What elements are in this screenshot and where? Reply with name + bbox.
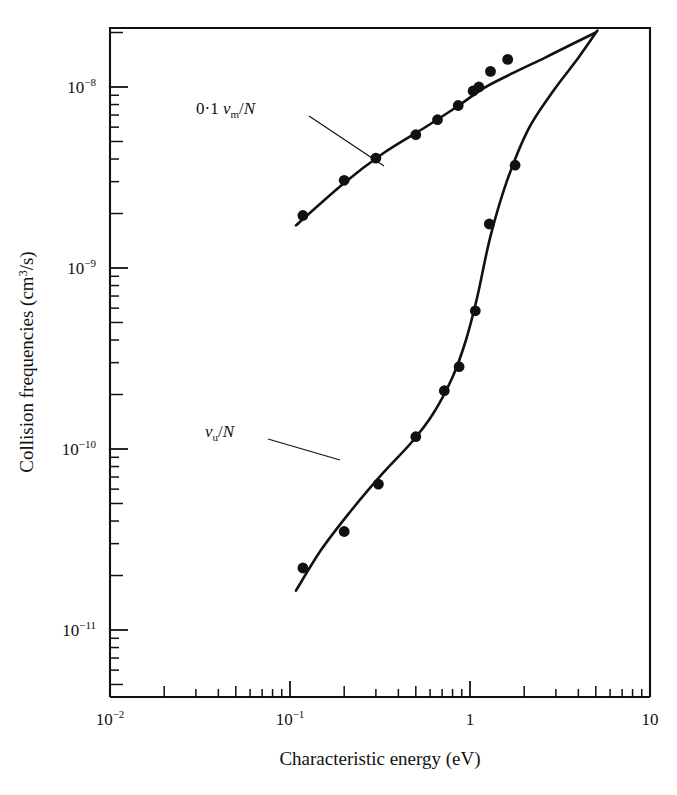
x-tick-label: 10−1 xyxy=(276,708,305,729)
y-tick-label: 10−8 xyxy=(67,76,96,97)
data-points xyxy=(298,54,521,573)
data-point xyxy=(298,210,309,221)
y-axis-ticks xyxy=(110,33,128,685)
y-axis-title: Collision frequencies (cm3/s) xyxy=(16,251,38,472)
data-curves xyxy=(296,31,597,591)
x-tick-label: 10−2 xyxy=(96,708,125,729)
x-tick-label: 1 xyxy=(466,710,475,729)
data-point xyxy=(410,129,421,140)
plot-frame xyxy=(110,28,650,697)
data-point xyxy=(410,431,421,442)
upper-curve-label: 0·1 νm/N xyxy=(196,99,257,120)
curve-upper xyxy=(296,33,596,226)
caption-fragment xyxy=(0,779,677,795)
data-point xyxy=(453,100,464,111)
y-axis-tick-labels: 10−810−910−1010−11 xyxy=(62,76,97,640)
data-point xyxy=(454,361,465,372)
y-tick-label: 10−10 xyxy=(62,438,97,459)
data-point xyxy=(510,160,521,171)
data-point xyxy=(484,219,495,230)
data-point xyxy=(502,54,513,65)
data-point xyxy=(339,526,350,537)
data-point xyxy=(439,385,450,396)
annotation-leaders xyxy=(268,116,384,460)
data-point xyxy=(474,82,485,93)
data-point xyxy=(373,479,384,490)
x-tick-label: 10 xyxy=(642,710,659,729)
y-tick-label: 10−11 xyxy=(62,619,96,640)
lower-curve-label: νu/N xyxy=(205,422,236,443)
data-point xyxy=(470,305,481,316)
data-point xyxy=(485,66,496,77)
data-point xyxy=(298,563,309,574)
y-tick-label: 10−9 xyxy=(67,257,96,278)
x-axis-tick-labels: 10−210−1110 xyxy=(96,708,659,729)
figure-container: 10−810−910−1010−11 10−210−1110 0·1 νm/N … xyxy=(0,0,677,795)
data-point xyxy=(432,114,443,125)
collision-frequency-chart: 10−810−910−1010−11 10−210−1110 0·1 νm/N … xyxy=(0,0,677,795)
data-point xyxy=(339,175,350,186)
x-axis-title: Characteristic energy (eV) xyxy=(279,748,480,770)
x-axis-ticks xyxy=(110,681,650,697)
